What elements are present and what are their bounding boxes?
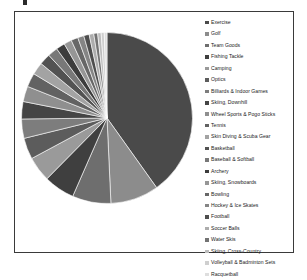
legend-item[interactable]: Fishing Tackle bbox=[205, 51, 291, 62]
legend-item-label: Skiing, Snowboards bbox=[211, 177, 256, 188]
legend-item-label: Skiing, Downhill bbox=[211, 97, 247, 108]
legend-item[interactable]: Water Skis bbox=[205, 234, 291, 245]
legend-swatch-icon bbox=[205, 147, 209, 151]
legend-swatch-icon bbox=[205, 250, 209, 254]
legend-item-label: Bowling bbox=[211, 189, 229, 200]
legend-item-label: Fishing Tackle bbox=[211, 51, 243, 62]
legend-item-label: Racquetball bbox=[211, 269, 238, 280]
pie-chart-area bbox=[21, 32, 193, 204]
legend-swatch-icon bbox=[205, 238, 209, 242]
legend-item-label: Water Skis bbox=[211, 234, 236, 245]
legend-item-label: Wheel Sports & Pogo Sticks bbox=[211, 109, 275, 120]
legend-swatch-icon bbox=[205, 181, 209, 185]
legend-item-label: Optics bbox=[211, 74, 226, 85]
legend-item-label: Baseball & Softball bbox=[211, 154, 254, 165]
legend-item[interactable]: Skiing, Downhill bbox=[205, 97, 291, 108]
legend-item[interactable]: Basketball bbox=[205, 143, 291, 154]
legend-item[interactable]: Hockey & Ice Skates bbox=[205, 200, 291, 211]
legend-item-label: Exercise bbox=[211, 17, 231, 28]
legend-item[interactable]: Skiing, Snowboards bbox=[205, 177, 291, 188]
legend-item-label: Team Goods bbox=[211, 40, 240, 51]
legend-item[interactable]: Bowling bbox=[205, 189, 291, 200]
legend-swatch-icon bbox=[205, 193, 209, 197]
legend-item[interactable]: Football bbox=[205, 211, 291, 222]
legend-item-label: Basketball bbox=[211, 143, 235, 154]
legend-item[interactable]: Volleyball & Badminton Sets bbox=[205, 257, 291, 268]
legend-swatch-icon bbox=[205, 32, 209, 36]
legend-item-label: Archery bbox=[211, 166, 229, 177]
legend-swatch-icon bbox=[205, 101, 209, 105]
legend-item[interactable]: Billiards & Indoor Games bbox=[205, 86, 291, 97]
legend-swatch-icon bbox=[205, 273, 209, 277]
legend-swatch-icon bbox=[205, 215, 209, 219]
legend-item-label: Hockey & Ice Skates bbox=[211, 200, 258, 211]
legend-item[interactable]: Camping bbox=[205, 63, 291, 74]
legend-swatch-icon bbox=[205, 44, 209, 48]
legend-swatch-icon bbox=[205, 90, 209, 94]
legend-item[interactable]: Team Goods bbox=[205, 40, 291, 51]
legend-swatch-icon bbox=[205, 21, 209, 25]
legend-item-label: Camping bbox=[211, 63, 232, 74]
legend-item-label: Football bbox=[211, 211, 229, 222]
legend-swatch-icon bbox=[205, 227, 209, 231]
legend-swatch-icon bbox=[205, 170, 209, 174]
legend-swatch-icon bbox=[205, 112, 209, 116]
legend-item-label: Soccer Balls bbox=[211, 223, 240, 234]
legend-item-label: Tennis bbox=[211, 120, 226, 131]
legend-item[interactable]: Soccer Balls bbox=[205, 223, 291, 234]
legend-item[interactable]: Baseball & Softball bbox=[205, 154, 291, 165]
legend-item[interactable]: Racquetball bbox=[205, 269, 291, 280]
pie-chart-svg bbox=[21, 32, 193, 204]
legend-swatch-icon bbox=[205, 135, 209, 139]
chart-legend: ExerciseGolfTeam GoodsFishing TackleCamp… bbox=[205, 17, 291, 249]
legend-item[interactable]: Wheel Sports & Pogo Sticks bbox=[205, 109, 291, 120]
legend-item[interactable]: Optics bbox=[205, 74, 291, 85]
legend-item-label: Billiards & Indoor Games bbox=[211, 86, 268, 97]
legend-swatch-icon bbox=[205, 204, 209, 208]
legend-item[interactable]: Golf bbox=[205, 28, 291, 39]
legend-swatch-icon bbox=[205, 158, 209, 162]
legend-swatch-icon bbox=[205, 67, 209, 71]
legend-swatch-icon bbox=[205, 261, 209, 265]
legend-item-label: Skin Diving & Scuba Gear bbox=[211, 131, 270, 142]
legend-item[interactable]: Skiing, Cross-Country bbox=[205, 246, 291, 257]
legend-swatch-icon bbox=[205, 55, 209, 59]
legend-swatch-icon bbox=[205, 124, 209, 128]
legend-item-label: Golf bbox=[211, 28, 220, 39]
legend-item[interactable]: Exercise bbox=[205, 17, 291, 28]
chart-frame: ExerciseGolfTeam GoodsFishing TackleCamp… bbox=[14, 11, 294, 253]
legend-item-label: Skiing, Cross-Country bbox=[211, 246, 261, 257]
legend-swatch-icon bbox=[205, 78, 209, 82]
cropped-top-mark bbox=[23, 0, 27, 5]
legend-item[interactable]: Skin Diving & Scuba Gear bbox=[205, 131, 291, 142]
legend-item-label: Volleyball & Badminton Sets bbox=[211, 257, 275, 268]
legend-item[interactable]: Archery bbox=[205, 166, 291, 177]
legend-item[interactable]: Tennis bbox=[205, 120, 291, 131]
